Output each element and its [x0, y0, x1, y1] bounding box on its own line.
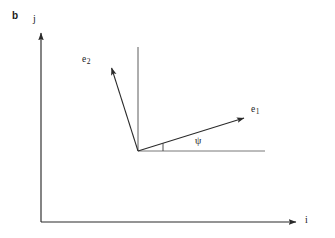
figure-panel-b: b j i e1 e2 ψ — [0, 0, 335, 238]
e2-vector-arrow — [112, 68, 138, 151]
i-axis-label: i — [305, 215, 308, 225]
e2-subscript: 2 — [86, 57, 90, 66]
e1-vector-label: e1 — [251, 105, 259, 116]
e2-vector-label: e2 — [82, 55, 90, 66]
e1-vector-arrow — [138, 118, 244, 151]
vector-diagram-canvas — [0, 0, 335, 238]
psi-angle-label: ψ — [195, 136, 201, 146]
panel-letter-label: b — [12, 11, 18, 21]
j-axis-label: j — [33, 14, 36, 24]
e1-subscript: 1 — [255, 107, 259, 116]
